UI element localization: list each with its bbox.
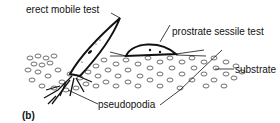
erect-test-shape <box>70 18 120 76</box>
erect-mobile-test-label: erect mobile test <box>26 5 99 15</box>
panel-label: (b) <box>22 111 35 121</box>
prostrate-test-shape <box>110 44 206 56</box>
pseudopodia-label: pseudopodia <box>98 100 155 110</box>
substrate-label: substrate <box>235 65 276 75</box>
prostrate-sessile-test-label: prostrate sessile test <box>172 27 264 37</box>
